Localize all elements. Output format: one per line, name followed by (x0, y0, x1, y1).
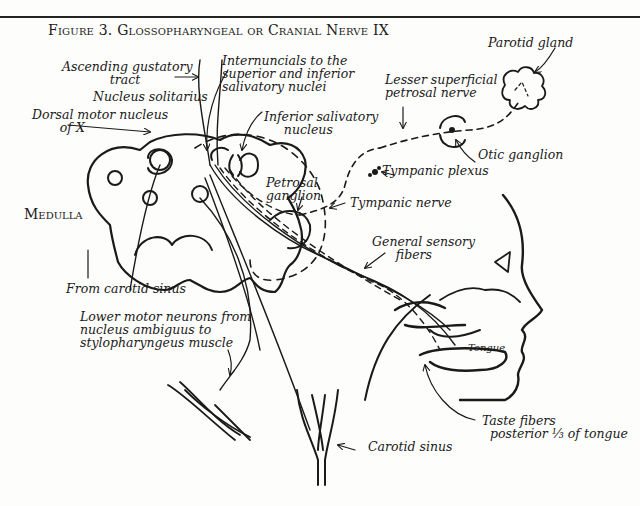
label-lesser-superficial-petrosal-nerve: Lesser superficial petrosal nerve (385, 73, 498, 99)
label-otic-ganglion: Otic ganglion (478, 148, 563, 161)
label-nucleus-solitarius: Nucleus solitarius (93, 90, 208, 103)
head-profile (365, 195, 542, 400)
label-carotid-sinus: Carotid sinus (368, 440, 452, 453)
label-lower-motor-neurons: Lower motor neurons from nucleus ambiguu… (80, 310, 251, 349)
label-tongue: Tongue (468, 341, 505, 354)
parotid-gland-shape (502, 67, 545, 109)
label-tympanic-plexus: Tympanic plexus (382, 164, 489, 177)
label-from-carotid-sinus: From carotid sinus (66, 282, 186, 295)
medulla-outline (88, 134, 310, 292)
stylopharyngeus-muscle (168, 382, 250, 440)
figure-title: Figure 3. Glossopharyngeal or Cranial Ne… (48, 22, 389, 38)
label-general-sensory-fibers: General sensory fibers (372, 235, 475, 261)
diagram-page: Figure 3. Glossopharyngeal or Cranial Ne… (0, 0, 640, 506)
label-tympanic-nerve: Tympanic nerve (350, 196, 452, 209)
medulla-label: Medulla (24, 206, 83, 222)
otic-ganglion (440, 116, 465, 147)
label-inferior-salivatory-nucleus: Inferior salivatory nucleus (264, 110, 378, 136)
nuclei (108, 148, 258, 205)
label-dorsal-motor-nucleus: Dorsal motor nucleus of X (32, 108, 168, 134)
label-parotid-gland: Parotid gland (488, 36, 573, 49)
label-taste-fibers: Taste fibers posterior ⅓ of tongue (482, 414, 628, 440)
carotid-artery (297, 390, 338, 485)
label-petrosal-ganglion: Petrosal ganglion (266, 176, 321, 202)
label-internuncials: Internuncials to the superior and inferi… (222, 54, 354, 93)
label-ascending-gustatory-tract: Ascending gustatory tract (62, 60, 192, 86)
